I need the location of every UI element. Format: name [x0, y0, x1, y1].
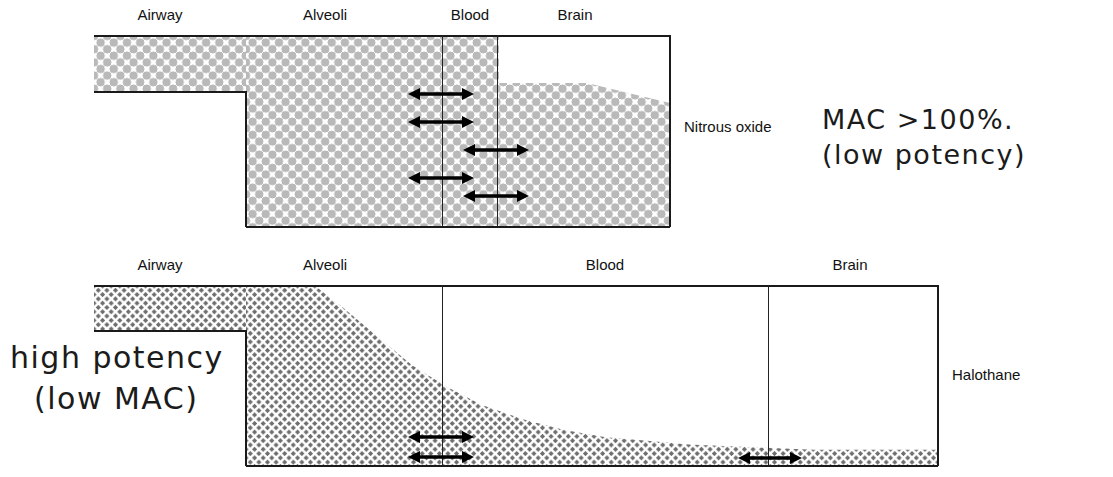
bottom-arrow-alveoli-blood-1: [408, 429, 474, 445]
top-agent-label-nitrous-oxide: Nitrous oxide: [684, 118, 772, 136]
bottom-molecules-airway: [94, 286, 246, 330]
handwriting-nitrous-oxide-line1: MAC >100%.: [822, 104, 1026, 135]
bottom-arrow-alveoli-blood-2: [408, 449, 474, 465]
handwriting-halothane-line1: high potency: [10, 340, 224, 375]
bottom-border-airway-top: [94, 285, 938, 287]
top-column-label-airway: Airway: [120, 6, 200, 24]
top-arrow-alveoli-blood-3: [408, 170, 474, 186]
bottom-divider-blood-brain: [768, 285, 769, 466]
top-molecules-airway: [94, 36, 246, 92]
bottom-agent-label-halothane: Halothane: [952, 366, 1020, 384]
top-border-airway-bottom: [94, 91, 247, 93]
handwriting-nitrous-oxide-line2: (low potency): [822, 139, 1026, 170]
handwriting-halothane-line2: (low MAC): [34, 381, 224, 416]
bottom-border-step: [245, 330, 247, 466]
bottom-arrow-blood-brain-1: [738, 450, 802, 466]
top-arrow-alveoli-blood-2: [408, 114, 474, 130]
top-border-bottom: [246, 226, 670, 228]
bottom-molecules-body: [246, 286, 938, 466]
bottom-border-bottom: [246, 465, 938, 467]
top-column-label-brain: Brain: [535, 6, 615, 24]
bottom-border-airway-bottom: [94, 330, 247, 332]
top-column-label-blood: Blood: [430, 6, 510, 24]
handwriting-halothane: high potency (low MAC): [10, 340, 224, 416]
top-border-airway-top: [94, 35, 670, 37]
top-divider-alveoli-blood: [442, 35, 443, 227]
bottom-column-label-airway: Airway: [120, 256, 200, 274]
top-arrow-blood-brain-2: [463, 188, 529, 204]
bottom-border-right: [937, 285, 939, 466]
bottom-column-label-alveoli: Alveoli: [285, 256, 365, 274]
top-arrow-blood-brain-1: [463, 142, 529, 158]
top-column-label-alveoli: Alveoli: [285, 6, 365, 24]
top-border-right: [669, 35, 671, 227]
top-border-step: [245, 91, 247, 227]
bottom-column-label-blood: Blood: [565, 256, 645, 274]
bottom-column-label-brain: Brain: [810, 256, 890, 274]
handwriting-nitrous-oxide: MAC >100%. (low potency): [822, 104, 1026, 170]
top-brain-empty-wedge-2: [499, 37, 670, 83]
top-arrow-alveoli-blood-1: [408, 86, 474, 102]
